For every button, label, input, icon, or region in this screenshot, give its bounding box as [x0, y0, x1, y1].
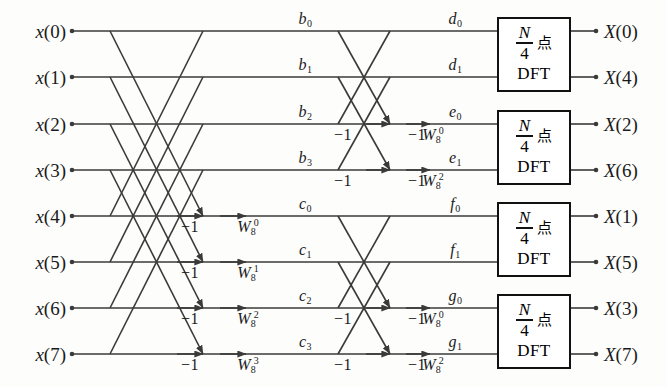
dft-block-2-numerator: N: [516, 117, 533, 135]
input-label-x3: x(3): [18, 161, 66, 180]
dft-block-3: N4点DFT: [497, 202, 571, 277]
stage1-twiddle-2: W82: [237, 311, 260, 327]
dft-block-3-denominator: 4: [517, 229, 532, 247]
dft-block-1-denominator: 4: [517, 44, 532, 62]
input-node-dot-7: [70, 352, 75, 357]
dft-block-4-denominator: 4: [517, 321, 532, 339]
dft-block-4-fraction: N4: [516, 301, 533, 339]
output-node-dot-3: [594, 168, 599, 173]
node-label-g1: g1: [449, 334, 462, 350]
node-label-c0: c0: [299, 196, 311, 212]
input-label-x7: x(7): [18, 345, 66, 364]
dft-block-4-label-bottom: DFT: [517, 341, 550, 361]
output-label-X1: X(1): [604, 207, 638, 226]
dft-block-1: N4点DFT: [497, 17, 571, 92]
stage1-gain-minus-one-3: −1: [181, 357, 199, 373]
input-label-x5: x(5): [18, 253, 66, 272]
node-label-c1: c1: [299, 242, 311, 258]
node-label-d1: d1: [449, 57, 462, 73]
dft-block-3-fraction: N4: [516, 209, 533, 247]
output-label-X5: X(5): [604, 253, 638, 272]
node-label-c2: c2: [299, 288, 311, 304]
stage1-twiddle-3: W83: [237, 357, 260, 373]
node-label-f0: f0: [450, 196, 459, 212]
output-label-X2: X(2): [604, 115, 638, 134]
dft-block-3-label-bottom: DFT: [517, 249, 550, 269]
node-label-c3: c3: [299, 334, 311, 350]
output-node-dot-4: [594, 214, 599, 219]
stage2-gain-minus-one-a-0: −1: [334, 127, 352, 143]
output-node-dot-1: [594, 75, 599, 80]
node-label-e0: e0: [449, 104, 461, 120]
stage2-gain-minus-one-a-2: −1: [334, 311, 352, 327]
output-label-X3: X(3): [604, 299, 638, 318]
stage2-gain-minus-one-a-3: −1: [334, 357, 352, 373]
dft-block-2-label-bottom: DFT: [517, 157, 550, 177]
node-label-g0: g0: [449, 288, 462, 304]
input-label-x2: x(2): [18, 115, 66, 134]
stage1-gain-minus-one-2: −1: [181, 311, 199, 327]
input-node-dot-3: [70, 168, 75, 173]
dft-block-1-label-top: N4点: [516, 24, 552, 62]
dft-block-1-label-bottom: DFT: [517, 64, 550, 84]
input-label-x4: x(4): [18, 207, 66, 226]
node-label-e1: e1: [449, 150, 461, 166]
dft-block-1-unit-character: 点: [537, 36, 552, 51]
dft-block-3-unit-character: 点: [537, 221, 552, 236]
node-label-d0: d0: [449, 11, 462, 27]
input-node-dot-2: [70, 122, 75, 127]
output-label-X6: X(6): [604, 161, 638, 180]
dft-block-2-unit-character: 点: [537, 129, 552, 144]
output-label-X0: X(0): [604, 22, 638, 41]
input-label-x6: x(6): [18, 299, 66, 318]
output-node-dot-0: [594, 29, 599, 34]
stage1-twiddle-0: W80: [237, 219, 260, 235]
dft-block-4: N4点DFT: [497, 294, 571, 369]
input-node-dot-5: [70, 260, 75, 265]
input-node-dot-4: [70, 214, 75, 219]
node-label-b2: b2: [299, 104, 312, 120]
dft-block-4-numerator: N: [516, 301, 533, 319]
output-node-dot-5: [594, 260, 599, 265]
input-node-dot-6: [70, 306, 75, 311]
stage2-gain-minus-one-a-1: −1: [334, 173, 352, 189]
stage2-twiddle-3: W82: [422, 357, 445, 373]
dft-block-3-label-top: N4点: [516, 209, 552, 247]
input-node-dot-1: [70, 75, 75, 80]
dft-block-2-denominator: 4: [517, 137, 532, 155]
dft-block-4-unit-character: 点: [537, 313, 552, 328]
dft-block-2-label-top: N4点: [516, 117, 552, 155]
output-label-X4: X(4): [604, 68, 638, 87]
output-node-dot-7: [594, 352, 599, 357]
dft-block-2-fraction: N4: [516, 117, 533, 155]
node-label-b1: b1: [299, 57, 312, 73]
fft-butterfly-diagram: x(0)x(1)x(2)x(3)x(4)x(5)x(6)x(7)X(0)X(4)…: [0, 0, 667, 387]
stage2-twiddle-0: W80: [422, 127, 445, 143]
output-node-dot-2: [594, 122, 599, 127]
dft-block-4-label-top: N4点: [516, 301, 552, 339]
dft-block-1-numerator: N: [516, 24, 533, 42]
stage2-twiddle-2: W80: [422, 311, 445, 327]
stage2-twiddle-1: W82: [422, 173, 445, 189]
node-label-b3: b3: [299, 150, 312, 166]
node-label-b0: b0: [299, 11, 312, 27]
output-label-X7: X(7): [604, 345, 638, 364]
input-node-dot-0: [70, 29, 75, 34]
dft-block-3-numerator: N: [516, 209, 533, 227]
input-label-x1: x(1): [18, 68, 66, 87]
dft-block-2: N4点DFT: [497, 110, 571, 185]
input-label-x0: x(0): [18, 22, 66, 41]
node-label-f1: f1: [450, 242, 459, 258]
stage1-gain-minus-one-1: −1: [181, 265, 199, 281]
stage1-twiddle-1: W81: [237, 265, 260, 281]
output-node-dot-6: [594, 306, 599, 311]
dft-block-1-fraction: N4: [516, 24, 533, 62]
stage1-gain-minus-one-0: −1: [181, 219, 199, 235]
